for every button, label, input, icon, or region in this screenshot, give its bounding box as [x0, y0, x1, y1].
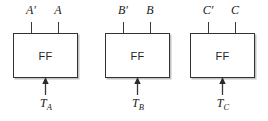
flip-flop-box-label-a: FF	[14, 34, 77, 77]
flip-flop-cell-c: C′ C FF TC	[177, 0, 267, 121]
output-label-c: C	[222, 3, 248, 17]
flip-flop-box-c: FF	[190, 33, 255, 78]
trigger-arrow-icon-b	[132, 77, 143, 95]
output-label-a: A	[45, 3, 71, 17]
trigger-label-a: TA	[32, 96, 60, 115]
trigger-arrow-icon-c	[217, 77, 228, 95]
output-stub-b	[150, 22, 151, 33]
flip-flop-box-a: FF	[13, 33, 78, 78]
output-label-a-complement: A′	[18, 3, 44, 17]
flip-flop-box-b: FF	[105, 33, 170, 78]
output-stub-b-complement	[123, 22, 124, 33]
trigger-label-b: TB	[124, 96, 152, 115]
output-label-c-complement: C′	[195, 3, 221, 17]
trigger-label-c: TC	[209, 96, 237, 115]
trigger-subscript-a: A	[47, 102, 52, 112]
output-stub-c	[235, 22, 236, 33]
output-stub-c-complement	[208, 22, 209, 33]
flip-flop-cell-b: B′ B FF TB	[92, 0, 182, 121]
output-stub-a	[58, 22, 59, 33]
flip-flop-cell-a: A′ A FF TA	[0, 0, 90, 121]
output-label-b: B	[137, 3, 163, 17]
output-stub-a-complement	[31, 22, 32, 33]
output-label-b-complement: B′	[110, 3, 136, 17]
trigger-subscript-b: B	[139, 102, 144, 112]
flip-flop-diagram: A′ A FF TA B′ B FF	[0, 0, 268, 121]
trigger-subscript-c: C	[224, 102, 230, 112]
trigger-arrow-icon-a	[40, 77, 51, 95]
flip-flop-box-label-b: FF	[106, 34, 169, 77]
flip-flop-box-label-c: FF	[191, 34, 254, 77]
